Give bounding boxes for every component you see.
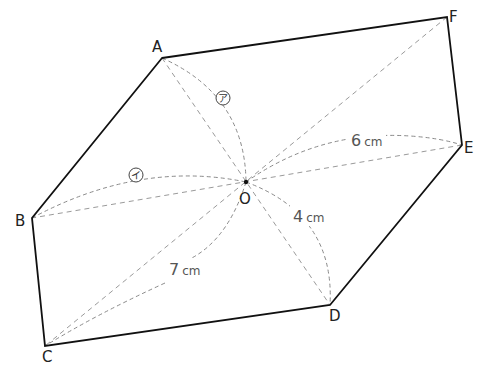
angle-mark-a: ア <box>216 91 230 105</box>
measurement-od: 4cm <box>290 206 328 226</box>
vertex-label-c: C <box>42 348 52 366</box>
vertex-label-e: E <box>464 139 473 157</box>
hexagon-diagram: ア イ 6cm 4cm 7cm A F E D C B O <box>0 0 486 376</box>
vertex-label-d: D <box>329 307 341 325</box>
angle-mark-i-glyph: イ <box>131 170 141 181</box>
angle-mark-i: イ <box>129 168 143 182</box>
vertex-label-f: F <box>449 8 458 26</box>
vertex-label-a: A <box>152 38 163 56</box>
measurement-oc: 7cm <box>167 258 205 279</box>
geometry-figure: ア イ 6cm 4cm 7cm A F E D C B O <box>0 0 486 376</box>
arc-bo <box>32 176 246 218</box>
center-point <box>244 180 248 184</box>
angle-mark-a-glyph: ア <box>218 93 228 104</box>
vertex-label-b: B <box>15 212 25 230</box>
measurement-oe: 6cm <box>346 130 386 150</box>
center-label-o: O <box>239 190 251 208</box>
